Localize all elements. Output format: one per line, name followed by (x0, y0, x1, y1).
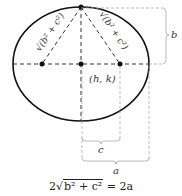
bracket-b (81, 8, 169, 64)
focus-left (40, 62, 45, 67)
focus-right (118, 62, 123, 67)
slant-label-right: √(b² + c²) (97, 10, 130, 53)
equation-radicand: b² + c² (63, 179, 103, 193)
equation-rhs: = 2a (107, 180, 133, 193)
label-b: b (171, 29, 177, 40)
center-label: (h, k) (89, 73, 116, 84)
center-point (79, 62, 84, 67)
slant-label-left: √(b² + c²) (33, 11, 66, 54)
label-c: c (98, 144, 104, 155)
label-a: a (113, 165, 119, 176)
equation: 2√b² + c² = 2a (0, 180, 182, 193)
vertex-point (79, 5, 84, 10)
ellipse-diagram: b c a (h, k) √(b² + c²) √(b² + c²) (0, 0, 182, 196)
equation-coef: 2 (49, 180, 56, 193)
